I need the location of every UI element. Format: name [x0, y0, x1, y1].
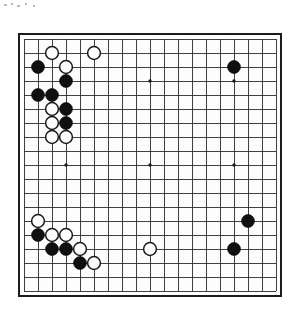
white-stone-D12[interactable] [60, 131, 73, 144]
star-point [64, 163, 67, 166]
black-stone-D13[interactable] [60, 117, 73, 130]
white-stone-K4[interactable] [144, 243, 157, 256]
white-stone-D17[interactable] [60, 61, 73, 74]
black-stone-D16[interactable] [60, 75, 73, 88]
star-point [232, 163, 235, 166]
black-stone-B5[interactable] [32, 229, 45, 242]
go-board-container[interactable] [0, 0, 300, 309]
page-root [0, 0, 300, 309]
black-stone-Q17[interactable] [228, 61, 241, 74]
white-stone-C13[interactable] [46, 117, 59, 130]
board-layer [19, 34, 281, 296]
black-stone-Q4[interactable] [228, 243, 241, 256]
white-stone-C5[interactable] [46, 229, 59, 242]
white-stone-C12[interactable] [46, 131, 59, 144]
white-stone-D5[interactable] [60, 229, 73, 242]
star-point [232, 79, 235, 82]
white-stone-E4[interactable] [74, 243, 87, 256]
black-stone-C15[interactable] [46, 89, 59, 102]
black-stone-D14[interactable] [60, 103, 73, 116]
black-stone-E3[interactable] [74, 257, 87, 270]
white-stone-C14[interactable] [46, 103, 59, 116]
black-stone-D4[interactable] [60, 243, 73, 256]
black-stone-B15[interactable] [32, 89, 45, 102]
white-stone-F3[interactable] [88, 257, 101, 270]
black-stone-B17[interactable] [32, 61, 45, 74]
white-stone-C18[interactable] [46, 47, 59, 60]
star-point [148, 163, 151, 166]
star-point [148, 79, 151, 82]
go-board-svg[interactable] [0, 0, 300, 309]
white-stone-F18[interactable] [88, 47, 101, 60]
black-stone-C4[interactable] [46, 243, 59, 256]
white-stone-B6[interactable] [32, 215, 45, 228]
black-stone-R6[interactable] [242, 215, 255, 228]
